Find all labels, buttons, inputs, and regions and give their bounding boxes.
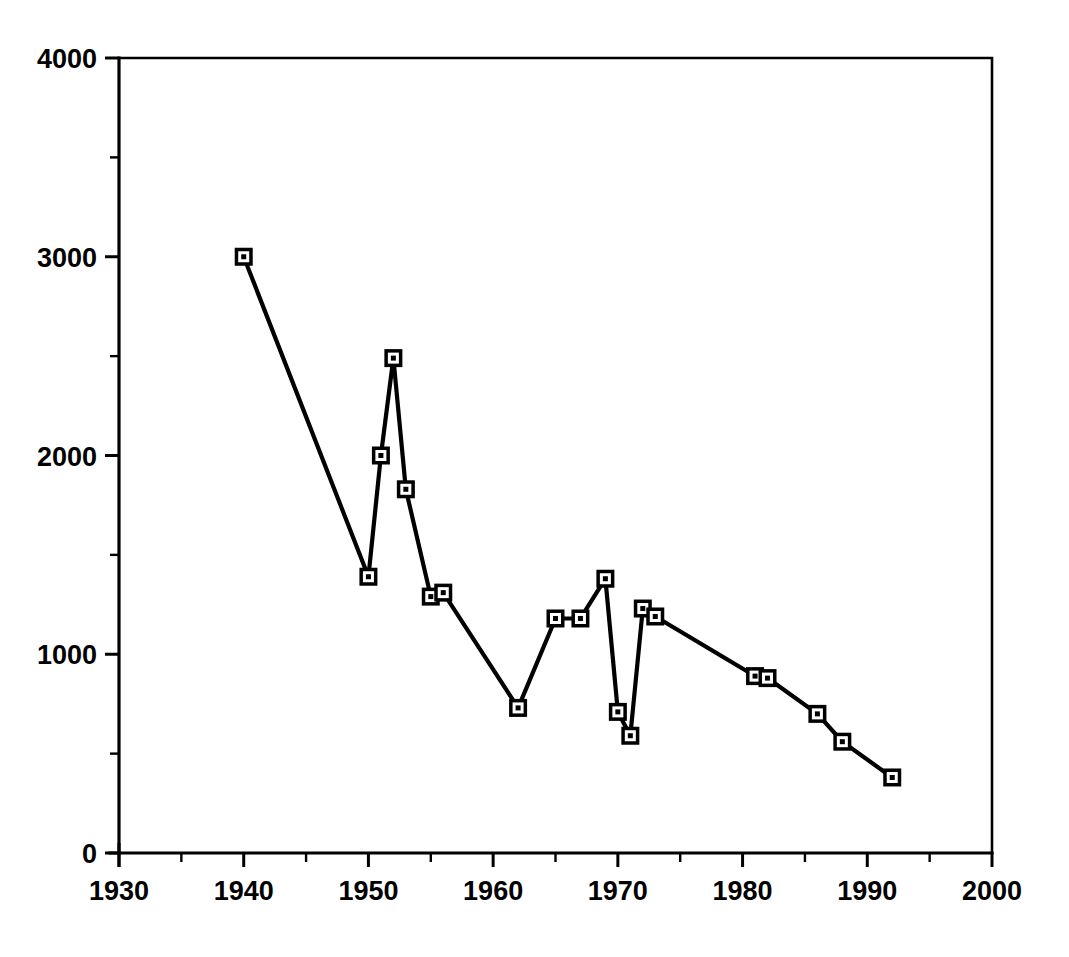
x-axis-tick-labels: 19301940195019601970198019902000 — [89, 876, 1022, 906]
marker-center-dot — [753, 674, 758, 679]
x-tick-label: 1950 — [338, 876, 398, 906]
marker-center-dot — [428, 594, 433, 599]
y-axis-tick-labels: 01000200030004000 — [37, 44, 97, 869]
data-point-marker — [759, 669, 777, 687]
data-point-marker — [621, 727, 639, 745]
y-axis-ticks — [105, 58, 119, 853]
y-tick-label: 4000 — [37, 44, 97, 74]
data-point-marker — [609, 703, 627, 721]
data-point-marker — [235, 248, 253, 266]
chart-canvas: 01000200030004000 1930194019501960197019… — [0, 0, 1069, 957]
marker-center-dot — [840, 739, 845, 744]
marker-center-dot — [378, 453, 383, 458]
x-tick-label: 1940 — [214, 876, 274, 906]
data-point-marker — [833, 733, 851, 751]
y-tick-label: 3000 — [37, 243, 97, 273]
x-tick-label: 1980 — [713, 876, 773, 906]
data-series — [235, 248, 902, 787]
marker-center-dot — [578, 616, 583, 621]
marker-center-dot — [815, 711, 820, 716]
data-series-layer — [235, 248, 902, 787]
marker-center-dot — [441, 590, 446, 595]
y-tick-label: 1000 — [37, 640, 97, 670]
marker-center-dot — [765, 676, 770, 681]
x-tick-label: 1990 — [837, 876, 897, 906]
marker-center-dot — [241, 254, 246, 259]
x-tick-label: 1960 — [463, 876, 523, 906]
marker-center-dot — [628, 733, 633, 738]
data-point-marker — [434, 584, 452, 602]
x-tick-label: 1930 — [89, 876, 149, 906]
data-point-marker — [509, 699, 527, 717]
data-point-marker — [547, 609, 565, 627]
data-point-marker — [397, 480, 415, 498]
marker-center-dot — [403, 487, 408, 492]
marker-center-dot — [391, 356, 396, 361]
marker-center-dot — [553, 616, 558, 621]
axes — [110, 58, 992, 853]
y-tick-label: 0 — [82, 839, 97, 869]
marker-center-dot — [366, 574, 371, 579]
data-point-marker — [808, 705, 826, 723]
data-point-marker — [883, 768, 901, 786]
marker-center-dot — [615, 709, 620, 714]
plot-frame — [119, 58, 992, 853]
series-line-path — [244, 257, 893, 778]
data-point-marker — [596, 570, 614, 588]
chart-figure: 01000200030004000 1930194019501960197019… — [0, 0, 1069, 957]
marker-center-dot — [516, 705, 521, 710]
y-tick-label: 2000 — [37, 442, 97, 472]
x-tick-label: 2000 — [962, 876, 1022, 906]
frame-top-right-path — [119, 58, 992, 853]
marker-center-dot — [653, 614, 658, 619]
marker-center-dot — [640, 606, 645, 611]
data-point-marker — [372, 447, 390, 465]
x-axis-ticks — [119, 843, 992, 867]
marker-center-dot — [603, 576, 608, 581]
data-point-marker — [359, 568, 377, 586]
data-point-marker — [646, 607, 664, 625]
marker-center-dot — [890, 775, 895, 780]
data-point-marker — [384, 349, 402, 367]
data-point-marker — [571, 609, 589, 627]
x-tick-label: 1970 — [588, 876, 648, 906]
